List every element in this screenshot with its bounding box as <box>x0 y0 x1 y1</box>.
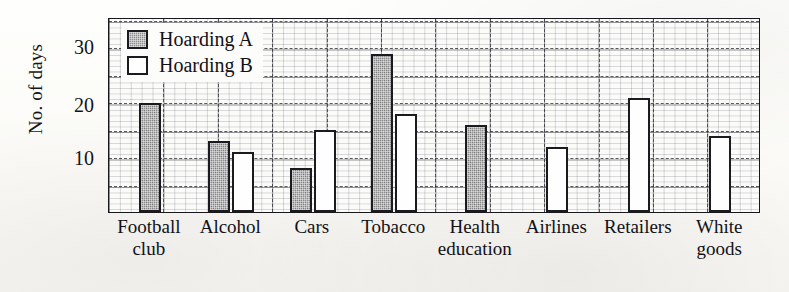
bar-cars-hoarding-a <box>290 168 312 212</box>
legend-swatch-icon-a <box>127 30 148 49</box>
legend-swatch-icon-b <box>127 56 148 75</box>
bar-football-club-hoarding-a <box>139 103 161 212</box>
y-tick-label-20: 20 <box>60 95 94 115</box>
legend-label-a: Hoarding A <box>159 29 253 49</box>
y-tick-label-30: 30 <box>60 37 94 57</box>
bar-alcohol-hoarding-a <box>208 141 230 212</box>
bar-tobacco-hoarding-b <box>395 114 417 212</box>
bar-airlines-hoarding-b <box>546 147 568 212</box>
bar-health-education-hoarding-a <box>465 125 487 212</box>
bar-white-goods-hoarding-b <box>709 136 731 212</box>
bar-retailers-hoarding-b <box>628 98 650 213</box>
x-label-line1: Health <box>449 216 500 237</box>
y-tick-label-10: 10 <box>60 148 94 168</box>
plot-area: Hoarding A Hoarding B <box>108 18 760 213</box>
bar-cars-hoarding-b <box>314 130 336 212</box>
x-label-line1: Cars <box>294 216 329 237</box>
x-label-line2: education <box>438 238 512 260</box>
chart-legend: Hoarding A Hoarding B <box>121 23 263 82</box>
x-label-line1: White <box>696 216 742 237</box>
x-tick-label-tobacco: Tobacco <box>361 216 425 238</box>
x-tick-label-retailers: Retailers <box>604 216 672 238</box>
x-label-line1: Airlines <box>526 216 587 237</box>
x-tick-label-airlines: Airlines <box>526 216 587 238</box>
x-axis-tick-labels: FootballclubAlcoholCarsTobaccoHealtheduc… <box>108 216 760 290</box>
x-label-line2: club <box>117 238 180 260</box>
legend-item-hoarding-b: Hoarding B <box>127 52 253 78</box>
bar-alcohol-hoarding-b <box>232 152 254 212</box>
x-label-line1: Football <box>117 216 180 237</box>
x-label-line2: goods <box>696 238 742 260</box>
x-label-line1: Retailers <box>604 216 672 237</box>
bar-chart-figure: No. of days 30 20 10 <box>0 0 789 292</box>
y-axis-tick-labels: 30 20 10 <box>44 0 94 292</box>
x-label-line1: Alcohol <box>200 216 261 237</box>
x-tick-label-cars: Cars <box>294 216 329 238</box>
x-tick-label-health-education: Healtheducation <box>438 216 512 261</box>
x-label-line1: Tobacco <box>361 216 425 237</box>
legend-label-b: Hoarding B <box>159 55 253 75</box>
x-tick-label-alcohol: Alcohol <box>200 216 261 238</box>
bar-tobacco-hoarding-a <box>371 54 393 212</box>
x-tick-label-white-goods: Whitegoods <box>696 216 742 261</box>
legend-item-hoarding-a: Hoarding A <box>127 26 253 52</box>
x-tick-label-football-club: Footballclub <box>117 216 180 261</box>
